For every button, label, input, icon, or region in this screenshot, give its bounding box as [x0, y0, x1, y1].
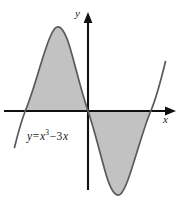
- y-axis-label: y: [75, 8, 80, 19]
- shaded-region-left: [25, 27, 88, 111]
- equation-variable: x: [63, 130, 68, 142]
- y-axis-arrowhead: [84, 12, 93, 23]
- plot-canvas: [0, 0, 181, 198]
- shaded-region-right: [88, 111, 151, 195]
- function-plot-figure: y x y=x3−3x: [0, 0, 181, 198]
- x-axis-label: x: [163, 114, 168, 125]
- equation-equals-sign: =: [32, 130, 40, 142]
- equation-label: y=x3−3x: [27, 131, 68, 143]
- equation-rest: −3: [49, 130, 63, 142]
